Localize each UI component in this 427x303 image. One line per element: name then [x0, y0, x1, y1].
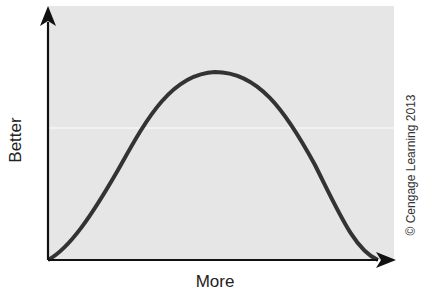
y-axis-label-text: Better: [6, 117, 26, 162]
x-axis-label: More: [150, 272, 280, 292]
copyright-notice: © Cengage Learning 2013: [398, 60, 424, 270]
copyright-text: © Cengage Learning 2013: [404, 95, 418, 236]
y-axis-label: Better: [4, 85, 28, 195]
chart-canvas: [0, 0, 427, 303]
